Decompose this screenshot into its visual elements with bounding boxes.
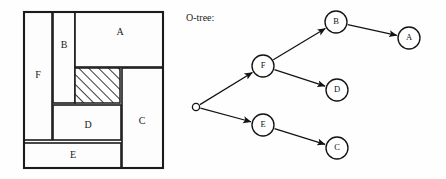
- tree-edge-b-to-a: [348, 25, 397, 36]
- tree-edge-root-to-e: [200, 108, 250, 122]
- block-label-c: C: [139, 115, 146, 126]
- tree-node-label-e: E: [260, 119, 265, 129]
- floorplan-block-a: [75, 12, 163, 67]
- tree-node-label-f: F: [261, 60, 266, 70]
- tree-node-label-d: D: [334, 84, 340, 94]
- block-label-a: A: [116, 26, 124, 37]
- block-label-f: F: [35, 69, 41, 80]
- tree-edge-e-to-c: [274, 129, 325, 145]
- tree-root-node[interactable]: [192, 103, 199, 110]
- tree-node-label-b: B: [333, 16, 339, 26]
- tree-node-label-c: C: [334, 142, 340, 152]
- tree-edge-f-to-d: [274, 70, 325, 86]
- figure-canvas: FBACDE FBADECO-tree:: [0, 0, 446, 179]
- block-label-b: B: [61, 39, 68, 50]
- block-label-e: E: [70, 149, 76, 160]
- floorplan-block-b: [53, 12, 75, 103]
- block-label-d: D: [84, 119, 91, 130]
- floorplan-dead-space-hatched: [75, 68, 120, 103]
- otree-caption: O-tree:: [186, 12, 214, 23]
- tree-edge-root-to-f: [200, 73, 252, 105]
- otree-group: FBADECO-tree:: [186, 11, 420, 159]
- floorplan-group: FBACDE: [24, 12, 163, 168]
- tree-node-label-a: A: [406, 32, 413, 42]
- otree-floorplan-figure: FBACDE FBADECO-tree: O-tree:: [0, 0, 446, 179]
- tree-edge-f-to-b: [273, 28, 325, 59]
